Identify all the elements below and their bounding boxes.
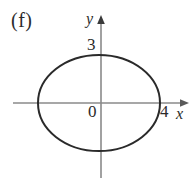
y-axis-label: y [86,11,93,27]
part-label: (f) [11,10,32,30]
y-axis-arrowhead [97,15,105,24]
y-tick-label-3: 3 [87,36,96,53]
figure-container: (f) y x 3 4 0 [0,0,193,183]
x-tick-label-4: 4 [160,103,169,120]
x-axis-label: x [176,106,183,122]
origin-label: 0 [88,103,97,120]
